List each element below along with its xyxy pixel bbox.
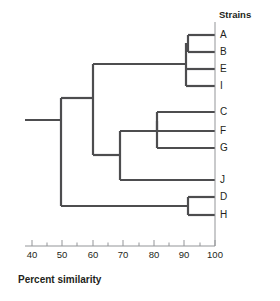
strain-label-G: G xyxy=(220,143,228,153)
x-axis-title: Percent similarity xyxy=(18,274,101,285)
tick-label-70: 70 xyxy=(111,250,135,260)
tick-label-60: 60 xyxy=(81,250,105,260)
strain-label-F: F xyxy=(220,126,226,136)
strain-label-E: E xyxy=(220,64,227,74)
strain-label-C: C xyxy=(220,107,227,117)
tick-label-80: 80 xyxy=(142,250,166,260)
tick-label-90: 90 xyxy=(172,250,196,260)
tree-branches xyxy=(25,35,215,215)
strain-label-A: A xyxy=(220,30,227,40)
axis-ticks xyxy=(32,240,215,246)
strains-column-header: Strains xyxy=(219,9,251,20)
strain-label-D: D xyxy=(220,192,227,202)
tick-label-100: 100 xyxy=(203,250,227,260)
dendrogram-figure: Strains A B E I C F G J D H 40 50 60 70 … xyxy=(0,0,280,301)
strain-label-J: J xyxy=(220,175,225,185)
strain-label-H: H xyxy=(220,210,227,220)
tick-label-50: 50 xyxy=(50,250,74,260)
strain-label-I: I xyxy=(220,81,223,91)
tick-label-40: 40 xyxy=(20,250,44,260)
strain-label-B: B xyxy=(220,47,227,57)
